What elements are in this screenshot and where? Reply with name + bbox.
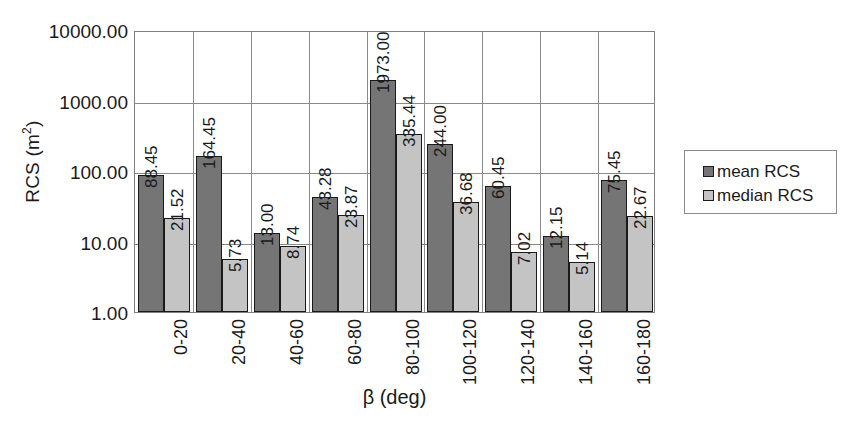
legend-swatch-median-icon [703, 190, 714, 201]
value-label-mean-0-20: 88.45 [143, 145, 160, 188]
x-tick-label-80-100: 80-100 [404, 319, 422, 375]
vertical-gridline [540, 32, 541, 312]
value-label-median-40-60: 8.74 [285, 226, 302, 259]
rcs-bar-chart: RCS (m2) 10000.001000.00100.0010.001.00 … [0, 0, 865, 434]
value-label-mean-80-100: 1973.00 [375, 31, 392, 92]
value-label-mean-160-180: 75.45 [606, 150, 623, 193]
value-label-mean-140-160: 12.15 [548, 206, 565, 249]
y-axis-ticks: 10000.001000.00100.0010.001.00 [0, 0, 128, 434]
bar-mean-0-20 [138, 175, 164, 312]
bar-mean-20-40 [196, 156, 222, 312]
vertical-gridline [193, 32, 194, 312]
value-label-mean-40-60: 13.00 [259, 204, 276, 247]
value-label-median-120-140: 7.02 [516, 232, 533, 265]
x-tick-label-160-180: 160-180 [635, 319, 653, 385]
legend-label: median RCS [717, 187, 813, 204]
vertical-gridline [251, 32, 252, 312]
bar-mean-120-140 [485, 186, 511, 312]
vertical-gridline [482, 32, 483, 312]
x-axis-title: β (deg) [134, 386, 655, 409]
y-tick-label: 10.00 [8, 233, 128, 252]
x-tick-label-0-20: 0-20 [172, 319, 190, 355]
bar-median-100-120 [453, 202, 479, 312]
bar-mean-100-120 [427, 144, 453, 312]
bar-median-60-80 [338, 215, 364, 312]
x-tick-label-60-80: 60-80 [346, 319, 364, 365]
bar-mean-60-80 [312, 197, 338, 312]
y-tick-label: 1.00 [8, 304, 128, 323]
x-tick-label-20-40: 20-40 [230, 319, 248, 365]
value-label-median-80-100: 335.44 [401, 95, 418, 147]
value-label-mean-60-80: 43.28 [317, 167, 334, 210]
bar-median-160-180 [627, 216, 653, 312]
x-tick-label-100-120: 100-120 [461, 319, 479, 385]
x-tick-label-140-160: 140-160 [577, 319, 595, 385]
legend-item-median[interactable]: median RCS [703, 184, 836, 207]
y-tick-label: 100.00 [8, 163, 128, 182]
value-label-median-0-20: 21.52 [169, 188, 186, 231]
value-label-median-160-180: 22.67 [632, 187, 649, 230]
x-tick-label-40-60: 40-60 [288, 319, 306, 365]
legend-swatch-mean-icon [703, 166, 714, 177]
value-label-mean-20-40: 164.45 [201, 117, 218, 169]
value-label-mean-100-120: 244.00 [432, 105, 449, 157]
y-tick-label: 1000.00 [8, 92, 128, 111]
bar-mean-80-100 [370, 80, 396, 312]
vertical-gridline [598, 32, 599, 312]
bar-mean-160-180 [601, 180, 627, 312]
vertical-gridline [424, 32, 425, 312]
chart-legend: mean RCSmedian RCS [684, 150, 837, 214]
legend-label: mean RCS [717, 163, 800, 180]
y-tick-label: 10000.00 [8, 22, 128, 41]
value-label-median-100-120: 36.68 [458, 172, 475, 215]
plot-area: 88.4521.52164.455.7313.008.7443.2823.871… [134, 31, 655, 313]
bar-median-0-20 [164, 218, 190, 312]
vertical-gridline [309, 32, 310, 312]
bar-median-80-100 [396, 134, 422, 312]
value-label-mean-120-140: 60.45 [490, 157, 507, 200]
legend-item-mean[interactable]: mean RCS [703, 160, 836, 183]
vertical-gridline [367, 32, 368, 312]
value-label-median-20-40: 5.73 [227, 238, 244, 271]
value-label-median-140-160: 5.14 [574, 242, 591, 275]
x-tick-label-120-140: 120-140 [519, 319, 537, 385]
value-label-median-60-80: 23.87 [343, 185, 360, 228]
